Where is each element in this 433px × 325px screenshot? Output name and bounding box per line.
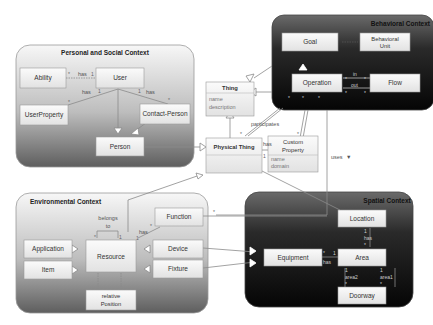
svg-text:uses: uses bbox=[331, 154, 343, 160]
class-device[interactable]: Device bbox=[153, 240, 203, 258]
svg-text:1: 1 bbox=[380, 267, 383, 273]
svg-text:User: User bbox=[113, 74, 128, 81]
svg-text:Property: Property bbox=[282, 147, 304, 153]
class-location[interactable]: Location bbox=[338, 210, 386, 227]
svg-text:to: to bbox=[106, 223, 111, 229]
svg-text:has: has bbox=[139, 229, 148, 235]
svg-text:area1: area1 bbox=[380, 274, 393, 280]
class-application[interactable]: Application bbox=[24, 240, 72, 258]
class-custom-property[interactable]: Custom Property name domain bbox=[268, 136, 318, 172]
class-user[interactable]: User bbox=[96, 68, 144, 88]
class-behavioral-unit[interactable]: Behavioral Unit bbox=[360, 33, 410, 51]
svg-text:Resource: Resource bbox=[97, 253, 125, 260]
svg-text:*: * bbox=[302, 95, 304, 101]
class-goal[interactable]: Goal bbox=[282, 33, 338, 51]
svg-text:participates: participates bbox=[251, 121, 279, 127]
class-operation[interactable]: Operation bbox=[292, 74, 342, 92]
svg-text:UserProperty: UserProperty bbox=[25, 111, 64, 119]
svg-text:*: * bbox=[364, 76, 366, 82]
svg-text:name: name bbox=[271, 156, 285, 162]
svg-text:*: * bbox=[364, 242, 366, 248]
svg-text:Doorway: Doorway bbox=[349, 292, 375, 300]
svg-text:*: * bbox=[213, 209, 215, 215]
svg-text:*: * bbox=[345, 281, 347, 287]
svg-text:has: has bbox=[263, 141, 272, 147]
svg-text:1: 1 bbox=[119, 234, 122, 240]
class-function[interactable]: Function bbox=[155, 208, 203, 226]
svg-text:Thing: Thing bbox=[222, 85, 238, 91]
uml-diagram: Personal and Social Context Behavioral C… bbox=[0, 0, 433, 325]
svg-text:out: out bbox=[351, 82, 359, 88]
svg-text:Function: Function bbox=[167, 213, 192, 220]
svg-text:relative: relative bbox=[102, 293, 121, 299]
svg-text:area2: area2 bbox=[345, 274, 358, 280]
svg-text:Fixture: Fixture bbox=[168, 265, 188, 272]
svg-text:1: 1 bbox=[98, 88, 101, 94]
svg-text:Goal: Goal bbox=[303, 38, 317, 45]
class-doorway[interactable]: Doorway bbox=[338, 287, 386, 304]
arrow-indicator-icon: ▼ bbox=[346, 154, 351, 160]
svg-text:*: * bbox=[240, 131, 242, 137]
svg-text:*: * bbox=[68, 99, 70, 105]
context-title: Environmental Context bbox=[30, 198, 102, 205]
svg-text:*: * bbox=[288, 95, 290, 101]
class-contact-person[interactable]: Contact-Person bbox=[140, 104, 190, 124]
class-ability[interactable]: Ability bbox=[20, 68, 66, 88]
svg-text:has: has bbox=[78, 71, 87, 77]
class-relative-position[interactable]: relative Position bbox=[86, 290, 136, 310]
svg-text:1: 1 bbox=[333, 250, 336, 256]
svg-text:1: 1 bbox=[91, 71, 94, 77]
svg-text:Item: Item bbox=[42, 266, 55, 273]
svg-text:has: has bbox=[146, 89, 155, 95]
svg-text:Equipment: Equipment bbox=[277, 254, 308, 262]
svg-text:Application: Application bbox=[32, 245, 64, 253]
svg-text:1: 1 bbox=[345, 267, 348, 273]
svg-text:description: description bbox=[209, 104, 236, 110]
svg-text:Flow: Flow bbox=[388, 79, 402, 86]
svg-text:*: * bbox=[380, 281, 382, 287]
svg-text:1: 1 bbox=[138, 88, 141, 94]
class-resource[interactable]: Resource bbox=[86, 240, 136, 272]
svg-text:*: * bbox=[323, 250, 325, 256]
svg-text:*: * bbox=[364, 90, 366, 96]
svg-text:Physical Thing: Physical Thing bbox=[214, 144, 255, 150]
svg-text:Location: Location bbox=[350, 215, 375, 222]
svg-text:*: * bbox=[150, 223, 152, 229]
svg-text:*: * bbox=[168, 97, 170, 103]
svg-text:*: * bbox=[68, 71, 70, 77]
class-flow[interactable]: Flow bbox=[370, 74, 420, 92]
svg-text:*: * bbox=[345, 76, 347, 82]
svg-text:Device: Device bbox=[168, 245, 188, 252]
svg-text:Area: Area bbox=[355, 254, 369, 261]
svg-text:has: has bbox=[82, 89, 91, 95]
class-person[interactable]: Person bbox=[96, 137, 144, 156]
svg-text:Position: Position bbox=[101, 301, 122, 307]
svg-text:Ability: Ability bbox=[34, 74, 52, 82]
behavioral-context: Behavioral Context bbox=[272, 15, 433, 110]
svg-text:Behavioral: Behavioral bbox=[371, 36, 398, 42]
svg-text:has: has bbox=[364, 235, 373, 241]
class-item[interactable]: Item bbox=[24, 261, 72, 279]
svg-text:belongs: belongs bbox=[98, 215, 118, 221]
svg-text:*: * bbox=[318, 95, 320, 101]
svg-text:Person: Person bbox=[110, 143, 131, 150]
svg-text:domain: domain bbox=[271, 163, 289, 169]
svg-text:Custom: Custom bbox=[283, 139, 303, 145]
svg-text:Unit: Unit bbox=[380, 43, 391, 49]
class-area[interactable]: Area bbox=[338, 249, 386, 266]
class-user-property[interactable]: UserProperty bbox=[20, 105, 68, 125]
context-title: Spatial Context bbox=[363, 197, 411, 205]
svg-text:1: 1 bbox=[263, 153, 266, 159]
class-equipment[interactable]: Equipment bbox=[264, 249, 322, 266]
uses-label: uses ▼ bbox=[331, 154, 351, 160]
svg-text:*: * bbox=[297, 131, 299, 137]
svg-text:*: * bbox=[345, 90, 347, 96]
svg-text:1: 1 bbox=[364, 228, 367, 234]
svg-text:name: name bbox=[209, 96, 223, 102]
svg-text:has: has bbox=[323, 259, 332, 265]
svg-text:Contact-Person: Contact-Person bbox=[142, 110, 188, 117]
class-thing[interactable]: Thing name description bbox=[206, 82, 254, 116]
class-physical-thing[interactable]: Physical Thing bbox=[206, 138, 262, 173]
class-fixture[interactable]: Fixture bbox=[153, 260, 203, 278]
svg-text:*: * bbox=[94, 234, 96, 240]
